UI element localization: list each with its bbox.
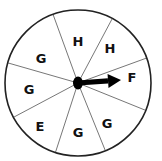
section-label: F <box>128 70 137 85</box>
section-divider-line <box>53 14 78 83</box>
arrow-head-icon <box>108 74 121 88</box>
section-label: H <box>105 41 116 56</box>
section-label: G <box>36 51 47 66</box>
spinner-hub <box>73 77 83 90</box>
section-label: G <box>24 82 35 97</box>
section-divider-line <box>8 63 78 83</box>
section-divider-line <box>78 83 146 110</box>
section-label: H <box>73 34 84 49</box>
spinner-diagram: HHFGGEGG <box>0 0 162 161</box>
section-label: G <box>102 116 113 131</box>
section-label: E <box>36 119 45 134</box>
section-label: G <box>73 125 84 140</box>
